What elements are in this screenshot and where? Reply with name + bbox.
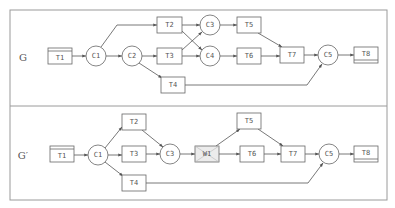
node-label: C3 (206, 21, 214, 29)
node-label: T8 (362, 50, 370, 58)
node-t4[interactable]: T4 (122, 175, 146, 191)
node-label: C5 (325, 150, 333, 158)
edge-c1-to-t2 (101, 25, 157, 47)
node-c1[interactable]: C1 (86, 46, 106, 66)
node-label: C4 (206, 52, 214, 60)
node-t8[interactable]: T8 (354, 47, 378, 63)
edge-t4-to-c5 (185, 64, 322, 85)
edge-t5-to-t7 (258, 129, 283, 146)
outer-frame (10, 10, 387, 200)
node-label: T6 (248, 150, 256, 158)
node-t6[interactable]: T6 (237, 48, 261, 64)
edge-w1-to-t5 (216, 129, 240, 146)
nodes: T1C1T2T3T4C3W1T5T6T7C5T8 (50, 113, 378, 191)
nodes: T1C1C2T2T3T4C3C4T5T6T7C5T8 (48, 15, 378, 93)
node-label: T1 (58, 152, 66, 160)
node-label: T3 (165, 52, 173, 60)
node-label: T5 (245, 21, 253, 29)
node-label: T2 (165, 21, 173, 29)
graph-g-prime: G′T1C1T2T3T4C3W1T5T6T7C5T8 (18, 113, 378, 191)
node-label: C5 (324, 51, 332, 59)
node-t3[interactable]: T3 (157, 48, 182, 64)
node-t2[interactable]: T2 (157, 17, 182, 33)
node-label: T5 (245, 117, 253, 125)
node-c4[interactable]: C4 (200, 46, 220, 66)
node-label: C3 (166, 150, 174, 158)
edge-t4-to-c5 (146, 163, 323, 183)
node-label: C2 (128, 52, 136, 60)
node-t7[interactable]: T7 (281, 146, 305, 162)
node-label: T7 (288, 51, 296, 59)
edge-c1-to-t2 (105, 127, 122, 148)
node-label: W1 (203, 150, 211, 158)
edge-c2-to-t4 (139, 63, 162, 78)
node-c3[interactable]: C3 (200, 15, 220, 35)
node-c1[interactable]: C1 (88, 145, 108, 165)
graph-label: G′ (18, 150, 29, 161)
diagram-frame (10, 10, 387, 200)
node-label: T4 (130, 179, 138, 187)
node-label: T1 (56, 54, 64, 62)
node-label: T6 (245, 52, 253, 60)
node-t5[interactable]: T5 (237, 17, 261, 33)
node-w1[interactable]: W1 (195, 146, 219, 162)
node-t8[interactable]: T8 (354, 146, 378, 162)
graph-g: GT1C1C2T2T3T4C3C4T5T6T7C5T8 (19, 15, 378, 93)
node-t6[interactable]: T6 (240, 146, 264, 162)
node-t1[interactable]: T1 (48, 48, 72, 64)
node-label: T3 (130, 150, 138, 158)
node-t3[interactable]: T3 (122, 146, 146, 162)
node-t7[interactable]: T7 (280, 47, 304, 63)
node-t2[interactable]: T2 (122, 114, 146, 130)
node-t4[interactable]: T4 (161, 77, 185, 93)
node-c5[interactable]: C5 (319, 144, 339, 164)
node-label: C1 (92, 52, 100, 60)
node-c2[interactable]: C2 (122, 46, 142, 66)
node-c3[interactable]: C3 (160, 144, 180, 164)
node-label: T2 (130, 118, 138, 126)
node-label: C1 (94, 151, 102, 159)
node-t1[interactable]: T1 (50, 146, 74, 162)
node-c5[interactable]: C5 (318, 45, 338, 65)
node-label: T4 (169, 81, 177, 89)
edge-c1-to-t4 (105, 162, 123, 176)
edge-t5-to-t7 (258, 33, 282, 47)
edge-t2-to-c3 (142, 130, 163, 147)
node-label: T7 (289, 150, 297, 158)
node-label: T8 (362, 149, 370, 157)
node-t5[interactable]: T5 (237, 113, 261, 129)
graph-label: G (19, 52, 27, 63)
workflow-diagram: GT1C1C2T2T3T4C3C4T5T6T7C5T8G′T1C1T2T3T4C… (0, 0, 395, 208)
